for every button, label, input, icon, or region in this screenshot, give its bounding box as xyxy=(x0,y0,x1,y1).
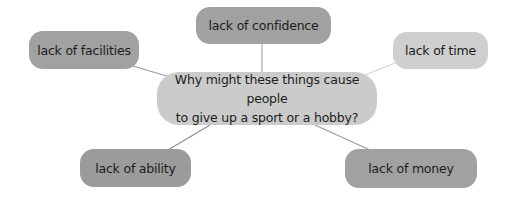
central-question-line-2: to give up a sport or a hobby? xyxy=(176,108,358,127)
node-label: lack of confidence xyxy=(208,18,318,33)
node-lack-of-money: lack of money xyxy=(345,149,477,188)
node-lack-of-confidence: lack of confidence xyxy=(196,7,331,44)
central-question-line-1: Why might these things cause people xyxy=(157,70,377,108)
node-label: lack of time xyxy=(405,43,476,58)
central-question-node: Why might these things cause people to g… xyxy=(157,72,377,125)
connector-money xyxy=(315,125,370,150)
connector-ability xyxy=(168,125,210,150)
node-lack-of-time: lack of time xyxy=(393,32,488,69)
node-label: lack of facilities xyxy=(37,43,131,58)
node-label: lack of money xyxy=(368,161,453,176)
node-label: lack of ability xyxy=(95,161,176,176)
node-lack-of-ability: lack of ability xyxy=(80,149,191,187)
mind-map: lack of confidence lack of facilities la… xyxy=(0,0,509,199)
node-lack-of-facilities: lack of facilities xyxy=(29,31,139,69)
